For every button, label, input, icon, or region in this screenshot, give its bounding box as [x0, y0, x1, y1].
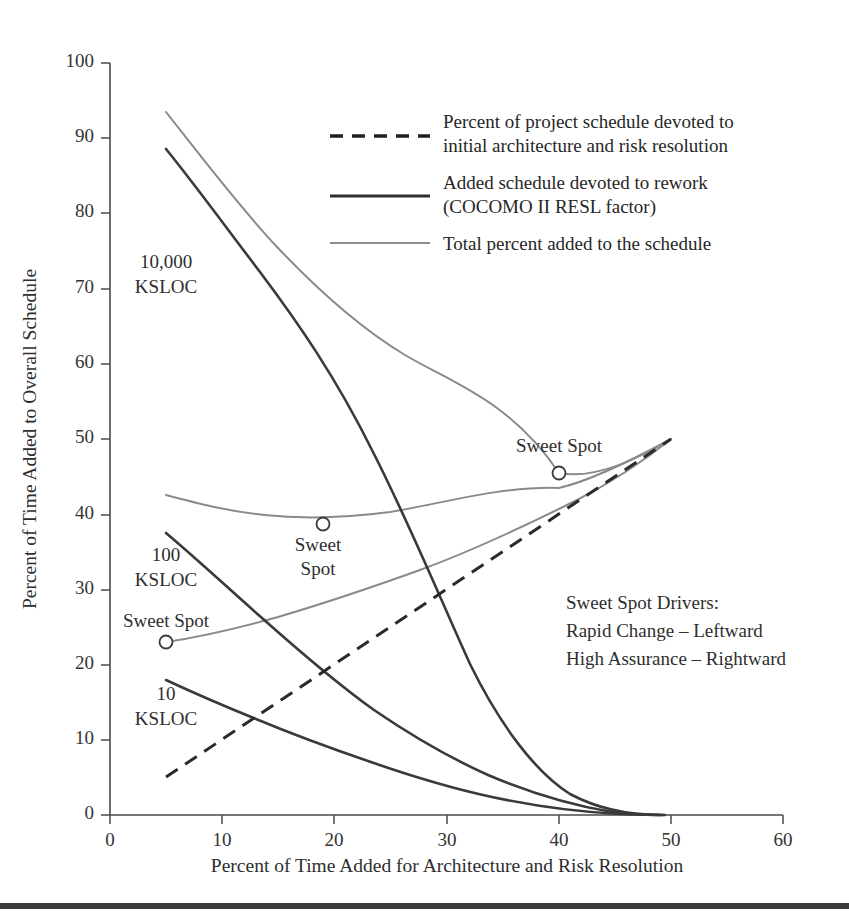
curve-label-10000-ksloc-line1: 10,000: [140, 251, 192, 272]
legend-group: Percent of project schedule devoted to i…: [330, 111, 734, 254]
y-tick-label-30: 30: [75, 577, 94, 598]
y-tick-label-50: 50: [75, 426, 94, 447]
y-tick-label-90: 90: [75, 125, 94, 146]
y-tick-label-0: 0: [85, 802, 95, 823]
legend-label-total-line1: Total percent added to the schedule: [443, 233, 711, 254]
bottom-rule-divider: [0, 903, 849, 909]
curve-size-labels-group: 10,000 KSLOC 100 KSLOC 10 KSLOC: [135, 251, 197, 729]
x-tick-label-10: 10: [213, 829, 232, 850]
x-tick-label-0: 0: [105, 829, 115, 850]
y-axis-title: Percent of Time Added to Overall Schedul…: [19, 269, 40, 609]
x-tick-label-20: 20: [325, 829, 344, 850]
sweet-spot-group: Sweet Spot Sweet Spot Sweet Spot: [123, 435, 603, 649]
sweet-spot-marker-10-ksloc: [160, 636, 173, 649]
total-curve-10000-ksloc: [166, 112, 671, 474]
drivers-line-1: Rapid Change – Leftward: [566, 620, 763, 641]
y-tick-label-40: 40: [75, 502, 94, 523]
x-tick-label-60: 60: [774, 829, 793, 850]
sweet-spot-label-100-ksloc-line2: Spot: [301, 558, 337, 579]
rework-curve-100-ksloc: [166, 533, 663, 815]
x-axis-title: Percent of Time Added for Architecture a…: [211, 855, 684, 876]
sweet-spot-label-10000-ksloc: Sweet Spot: [516, 435, 603, 456]
y-tick-label-60: 60: [75, 351, 94, 372]
legend-label-dashed-line1: Percent of project schedule devoted to: [443, 111, 734, 132]
sweet-spot-marker-100-ksloc: [317, 518, 330, 531]
curve-label-10-ksloc-line1: 10: [157, 683, 176, 704]
curve-label-100-ksloc-line2: KSLOC: [135, 569, 197, 590]
y-tick-label-10: 10: [75, 727, 94, 748]
y-tick-label-80: 80: [75, 200, 94, 221]
rework-curve-10-ksloc: [166, 680, 665, 815]
drivers-line-2: High Assurance – Rightward: [566, 648, 787, 669]
y-tick-label-100: 100: [66, 50, 95, 71]
curve-label-10-ksloc-line2: KSLOC: [135, 708, 197, 729]
legend-label-rework-line2: (COCOMO II RESL factor): [443, 196, 656, 218]
curve-label-10000-ksloc-line2: KSLOC: [135, 276, 197, 297]
y-tick-label-70: 70: [75, 276, 94, 297]
legend-label-dashed-line2: initial architecture and risk resolution: [443, 135, 728, 156]
curve-label-100-ksloc-line1: 100: [152, 544, 181, 565]
x-tick-label-50: 50: [662, 829, 681, 850]
sweet-spot-marker-10000-ksloc: [553, 467, 566, 480]
legend-label-rework-line1: Added schedule devoted to rework: [443, 172, 708, 193]
figure-container: 100 90 80 70 60 50 40 30 20 10 0 0 10 20…: [0, 0, 849, 922]
sweet-spot-label-100-ksloc-line1: Sweet: [295, 534, 342, 555]
x-tick-label-30: 30: [438, 829, 457, 850]
y-tick-label-20: 20: [75, 652, 94, 673]
chart-canvas: 100 90 80 70 60 50 40 30 20 10 0 0 10 20…: [0, 0, 849, 922]
sweet-spot-drivers-note: Sweet Spot Drivers: Rapid Change – Leftw…: [566, 592, 787, 669]
x-tick-label-40: 40: [550, 829, 569, 850]
drivers-title: Sweet Spot Drivers:: [566, 592, 719, 613]
sweet-spot-label-10-ksloc: Sweet Spot: [123, 610, 210, 631]
